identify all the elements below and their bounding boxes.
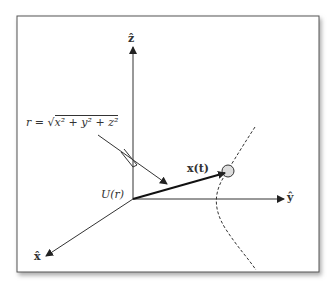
radius-equation-lhs: r = xyxy=(26,116,44,129)
particle xyxy=(222,165,234,177)
position-label: x(t) xyxy=(187,162,209,175)
diagram-canvas xyxy=(0,0,335,291)
figure-frame xyxy=(17,16,319,272)
z-axis-label: ẑ xyxy=(128,32,134,45)
y-axis-label: ŷ xyxy=(287,191,293,204)
x-axis-label: x̂ xyxy=(34,250,41,263)
radius-equation-rhs: x² + y² + z² xyxy=(55,115,119,129)
sqrt-symbol: √ xyxy=(47,116,54,129)
radius-equation: r = √x² + y² + z² xyxy=(26,116,118,129)
potential-label: U(r) xyxy=(101,188,124,201)
